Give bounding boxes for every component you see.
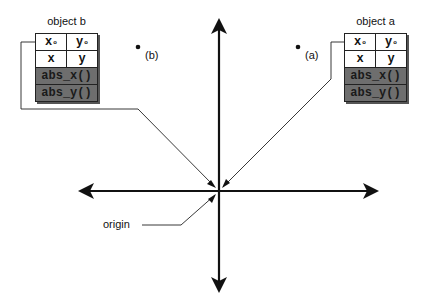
field-row-origin: xo yo — [36, 34, 97, 51]
field-row-position: x y — [36, 51, 97, 68]
field-row-position: x y — [345, 51, 406, 68]
field-row-origin: xo yo — [345, 34, 406, 51]
field-x: x — [345, 51, 375, 67]
object-b: object b xo yo x y abs_x() abs_y() — [35, 33, 98, 102]
origin-label: origin — [103, 218, 130, 230]
field-x0: xo — [36, 34, 66, 50]
method-abs-y-label: abs_y() — [345, 85, 406, 101]
field-x0: xo — [345, 34, 375, 50]
object-b-table: xo yo x y abs_x() abs_y() — [35, 33, 98, 102]
method-abs-y: abs_y() — [36, 85, 97, 101]
object-a: object a xo yo x y abs_x() abs_y() — [344, 33, 407, 102]
method-abs-x-label: abs_x() — [36, 68, 97, 84]
point-a-dot — [296, 45, 301, 50]
point-b-dot — [136, 45, 141, 50]
field-y0: yo — [66, 34, 97, 50]
x-axis — [78, 183, 379, 199]
method-abs-x: abs_x() — [36, 68, 97, 85]
field-y: y — [66, 51, 97, 67]
method-abs-y-label: abs_y() — [36, 85, 97, 101]
method-abs-x-label: abs_x() — [345, 68, 406, 84]
field-x: x — [36, 51, 66, 67]
point-a-label: (a) — [305, 49, 318, 61]
connector-object-a — [222, 42, 344, 188]
field-y0: yo — [375, 34, 406, 50]
method-abs-x: abs_x() — [345, 68, 406, 85]
method-abs-y: abs_y() — [345, 85, 406, 101]
object-a-title: object a — [344, 15, 407, 27]
field-y: y — [375, 51, 406, 67]
connector-origin — [142, 194, 216, 225]
object-a-table: xo yo x y abs_x() abs_y() — [344, 33, 407, 102]
point-b-label: (b) — [145, 49, 158, 61]
y-axis — [211, 18, 227, 293]
object-b-title: object b — [35, 15, 98, 27]
